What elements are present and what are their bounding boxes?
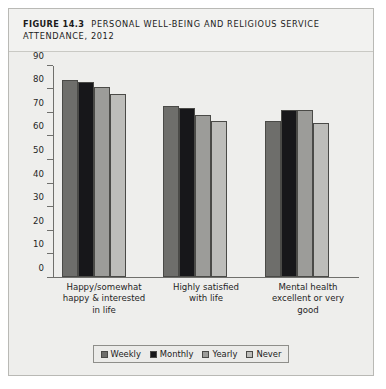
- legend-item-label: Yearly: [212, 349, 237, 359]
- y-axis-tick-label: 40: [33, 169, 44, 179]
- figure-caption: FIGURE 14.3PERSONAL WELL-BEING AND RELIG…: [9, 9, 373, 52]
- bar-never[interactable]: [110, 94, 126, 277]
- bar-yearly[interactable]: [195, 115, 211, 277]
- category-label-line: Happy/somewhat: [53, 282, 155, 294]
- y-axis-tick-label: 30: [33, 192, 44, 202]
- legend-item-label: Weekly: [111, 349, 141, 359]
- legend-item-weekly[interactable]: Weekly: [101, 349, 141, 359]
- bar-weekly[interactable]: [163, 106, 179, 277]
- bar-yearly[interactable]: [297, 110, 313, 276]
- y-axis-tick-label: 0: [39, 263, 44, 273]
- y-axis-tick: [47, 253, 53, 254]
- bar-never[interactable]: [211, 121, 227, 277]
- category-label-line: Mental health: [257, 282, 359, 294]
- y-axis-tick: [47, 183, 53, 184]
- bar-monthly[interactable]: [179, 108, 195, 277]
- y-axis-tick: [47, 135, 53, 136]
- chart-plot-area: 0102030405060708090 Happy/somewhathappy …: [9, 52, 373, 352]
- y-axis-tick: [47, 277, 53, 278]
- bar-monthly[interactable]: [78, 82, 94, 277]
- y-axis-tick: [47, 230, 53, 231]
- legend-item-yearly[interactable]: Yearly: [202, 349, 237, 359]
- x-axis-category-labels: Happy/somewhathappy & interestedin lifeH…: [53, 282, 359, 330]
- legend-swatch-icon: [101, 351, 108, 358]
- category-label-line: Highly satisfied: [155, 282, 257, 294]
- bar-monthly[interactable]: [281, 110, 297, 276]
- legend-item-label: Monthly: [160, 349, 194, 359]
- bar-group: [163, 66, 227, 277]
- category-label: Mental healthexcellent or verygood: [257, 282, 359, 317]
- bar-group: [62, 66, 126, 277]
- category-label-line: in life: [53, 305, 155, 317]
- category-label-line: good: [257, 305, 359, 317]
- bar-weekly[interactable]: [62, 80, 78, 277]
- y-axis-tick: [47, 206, 53, 207]
- y-axis-tick-label: 60: [33, 121, 44, 131]
- caption-text: FIGURE 14.3PERSONAL WELL-BEING AND RELIG…: [23, 19, 359, 43]
- bar-weekly[interactable]: [265, 121, 281, 277]
- legend-item-monthly[interactable]: Monthly: [150, 349, 194, 359]
- y-axis-tick: [47, 112, 53, 113]
- bar-group: [265, 66, 329, 277]
- legend-swatch-icon: [246, 351, 253, 358]
- y-axis-tick-label: 70: [33, 98, 44, 108]
- legend-item-label: Never: [256, 349, 281, 359]
- legend-container: WeeklyMonthlyYearlyNever: [9, 345, 373, 363]
- bar-yearly[interactable]: [94, 87, 110, 277]
- y-axis-tick-label: 50: [33, 145, 44, 155]
- y-axis-tick: [47, 88, 53, 89]
- x-axis-line: [53, 277, 359, 278]
- category-label-line: with life: [155, 293, 257, 305]
- y-axis-tick-label: 10: [33, 239, 44, 249]
- bars-layer: [54, 66, 359, 277]
- legend-swatch-icon: [202, 351, 209, 358]
- category-label: Highly satisfiedwith life: [155, 282, 257, 305]
- y-axis-tick-label: 20: [33, 216, 44, 226]
- y-axis-tick-label: 80: [33, 74, 44, 84]
- y-axis-tick: [47, 65, 53, 66]
- legend-item-never[interactable]: Never: [246, 349, 281, 359]
- legend-swatch-icon: [150, 351, 157, 358]
- category-label: Happy/somewhathappy & interestedin life: [53, 282, 155, 317]
- y-axis-tick-label: 90: [33, 51, 44, 61]
- chart-axes: 0102030405060708090: [53, 66, 359, 278]
- y-axis-tick: [47, 159, 53, 160]
- category-label-line: happy & interested: [53, 293, 155, 305]
- chart-legend: WeeklyMonthlyYearlyNever: [93, 345, 290, 363]
- figure-card: FIGURE 14.3PERSONAL WELL-BEING AND RELIG…: [8, 8, 374, 376]
- bar-never[interactable]: [313, 123, 329, 277]
- figure-number: FIGURE 14.3: [23, 19, 84, 29]
- category-label-line: excellent or very: [257, 293, 359, 305]
